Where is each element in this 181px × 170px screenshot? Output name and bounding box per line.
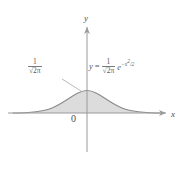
equation-exponential-term: e−x2/2 [117, 59, 134, 71]
equation-equals-sign: = [95, 62, 100, 71]
peak-fraction-denominator: √2π [28, 67, 42, 75]
exponent-divisor: /2 [130, 61, 134, 67]
plot-canvas [0, 0, 181, 170]
x-axis-label: x [171, 110, 175, 119]
peak-fraction: 1 √2π [28, 58, 42, 74]
equation-label: y = 1 √2π e−x2/2 [89, 58, 134, 74]
exponent-group: −x2/2 [121, 61, 134, 67]
y-axis-label: y [84, 14, 88, 23]
equation-lhs: y [89, 62, 93, 71]
normal-distribution-figure: y x 0 1 √2π y = 1 √2π e−x2/2 [0, 0, 181, 170]
equation-fraction: 1 √2π [102, 58, 116, 74]
peak-value-label: 1 √2π [28, 57, 42, 74]
equation-fraction-denominator: √2π [102, 67, 116, 75]
peak-leader-line [62, 79, 81, 91]
origin-label: 0 [71, 114, 76, 124]
